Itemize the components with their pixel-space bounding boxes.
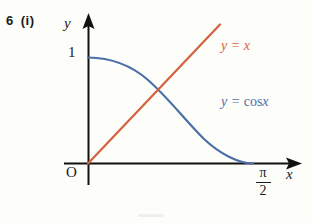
y-tick-label-1: 1: [68, 44, 76, 61]
fraction-numerator: π: [250, 166, 276, 181]
x-tick-label-pi-over-2: π 2: [250, 166, 276, 198]
origin-label: O: [66, 164, 77, 181]
cos-label-lhs: y =: [221, 94, 244, 109]
cos-curve: [88, 58, 253, 164]
label-y-equals-x: y = x: [221, 38, 250, 54]
x-axis-label: x: [286, 166, 293, 183]
page-artifact: [138, 214, 164, 217]
fraction-denominator: 2: [250, 184, 276, 199]
y-axis-label: y: [64, 15, 71, 32]
label-y-equals-cos-x: y = cosx: [221, 94, 269, 110]
cos-label-argument: x: [262, 94, 268, 109]
identity-line: [88, 25, 220, 164]
cos-label-function: cos: [244, 94, 263, 109]
